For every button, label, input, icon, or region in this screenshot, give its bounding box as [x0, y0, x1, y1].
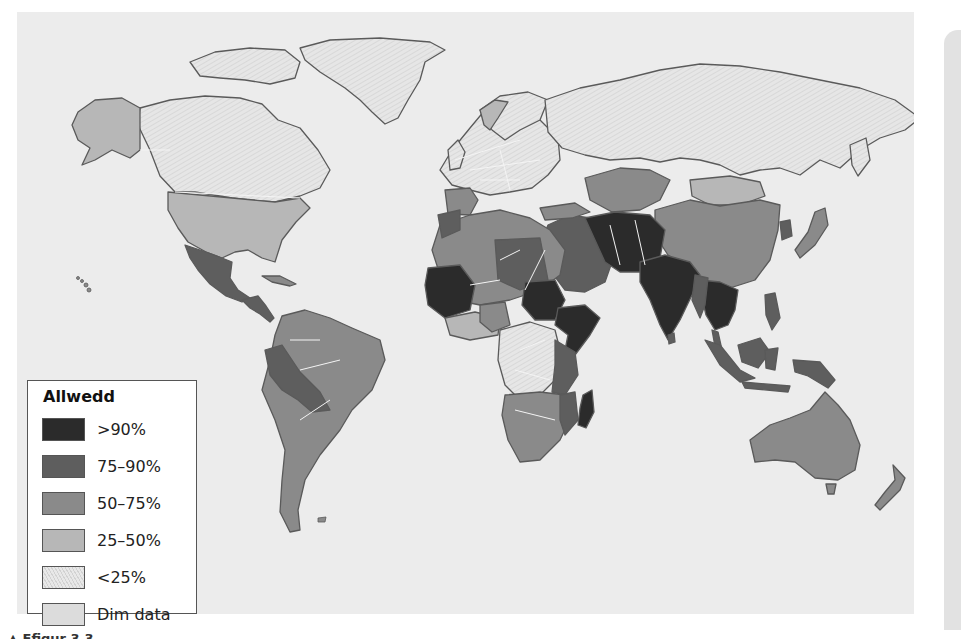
legend-item-50-75: 50–75%	[42, 485, 196, 522]
legend-label: 25–50%	[97, 531, 161, 550]
legend-item-under-25: <25%	[42, 559, 196, 596]
legend-item-over-90: >90%	[42, 411, 196, 448]
legend-label: >90%	[97, 420, 146, 439]
map-legend: Allwedd >90% 75–90% 50–75% 25–50% <25% D…	[27, 380, 197, 614]
falklands	[318, 517, 326, 522]
legend-title: Allwedd	[43, 387, 196, 407]
legend-item-no-data: Dim data	[42, 596, 196, 633]
adjacent-page-edge	[944, 30, 961, 630]
legend-swatch-50-75	[42, 492, 85, 515]
korea	[780, 220, 792, 240]
legend-swatch-over-90	[42, 418, 85, 441]
legend-swatch-under-25	[42, 566, 85, 589]
tasmania	[826, 484, 836, 494]
sulawesi	[765, 348, 778, 370]
legend-swatch-75-90	[42, 455, 85, 478]
legend-label: 75–90%	[97, 457, 161, 476]
sri-lanka	[668, 333, 675, 344]
legend-label: <25%	[97, 568, 146, 587]
legend-swatch-25-50	[42, 529, 85, 552]
figure-caption: ▲ Ffigur 3.3	[8, 630, 94, 639]
legend-item-25-50: 25–50%	[42, 522, 196, 559]
legend-swatch-no-data	[42, 603, 85, 626]
legend-label: 50–75%	[97, 494, 161, 513]
legend-item-75-90: 75–90%	[42, 448, 196, 485]
legend-label: Dim data	[97, 605, 170, 624]
